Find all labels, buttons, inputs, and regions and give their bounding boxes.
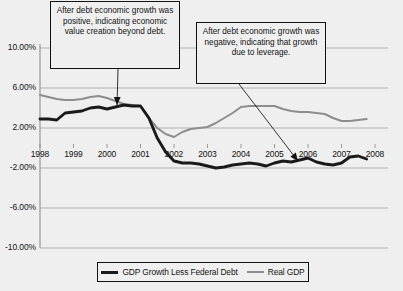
x-axis-tick-label: 2005 bbox=[259, 149, 291, 159]
y-axis-tick-label: 10.00% bbox=[0, 42, 36, 52]
legend-swatch-icon-dark bbox=[101, 271, 118, 274]
x-axis-tick-label: 1999 bbox=[58, 149, 90, 159]
legend-label-gdp-growth-less-federal-debt: GDP Growth Less Federal Debt bbox=[122, 267, 237, 277]
chart-container: 10.00%6.00%2.00%-2.00%-6.00%-10.00% 1998… bbox=[0, 0, 403, 291]
x-axis-tick-label: 2007 bbox=[326, 149, 358, 159]
y-axis-tick-label: -6.00% bbox=[0, 202, 36, 212]
chart-x-ticks bbox=[40, 144, 375, 148]
legend-swatch-icon-gray bbox=[247, 271, 264, 274]
x-axis-tick-label: 2006 bbox=[292, 149, 324, 159]
x-axis-tick-label: 2004 bbox=[225, 149, 257, 159]
annotation-callout-left: After debt economic growth was positive,… bbox=[50, 1, 180, 69]
annotation-callout-right: After debt economic growth was negative,… bbox=[196, 22, 326, 84]
chart-legend: GDP Growth Less Federal Debt Real GDP bbox=[97, 262, 309, 282]
legend-item-real-gdp: Real GDP bbox=[247, 267, 305, 277]
x-axis-tick-label: 1998 bbox=[24, 149, 56, 159]
x-axis-tick-label: 2001 bbox=[125, 149, 157, 159]
legend-item-gdp-growth-less-federal-debt: GDP Growth Less Federal Debt bbox=[101, 267, 237, 277]
x-axis-tick-label: 2008 bbox=[359, 149, 391, 159]
y-axis-tick-label: 2.00% bbox=[0, 122, 36, 132]
x-axis-tick-label: 2003 bbox=[192, 149, 224, 159]
y-axis-tick-label: -10.00% bbox=[0, 242, 36, 252]
legend-label-real-gdp: Real GDP bbox=[268, 267, 305, 277]
x-axis-tick-label: 2002 bbox=[158, 149, 190, 159]
x-axis-tick-label: 2000 bbox=[91, 149, 123, 159]
y-axis-tick-label: -2.00% bbox=[0, 162, 36, 172]
y-axis-tick-label: 6.00% bbox=[0, 82, 36, 92]
